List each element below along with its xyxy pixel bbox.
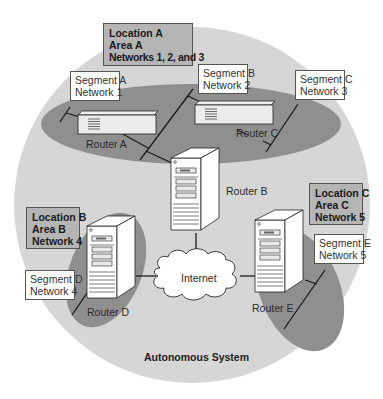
location-b-title: Location B	[32, 211, 74, 223]
segment-a-box: Segment A Network 1	[70, 71, 120, 101]
location-b-area: Area B	[32, 223, 74, 235]
router-b-label: Router B	[226, 186, 267, 197]
router-e-label: Router E	[252, 303, 293, 314]
internet-label: Internet	[181, 273, 217, 284]
location-c-box: Location C Area C Network 5	[309, 183, 363, 225]
segment-a-label: Segment A	[75, 74, 115, 86]
segment-d-network: Network 4	[30, 285, 70, 297]
router-d-label: Router D	[87, 307, 129, 318]
location-c-title: Location C	[315, 187, 357, 199]
location-a-box: Location A Area A Networks 1, 2, and 3	[103, 23, 193, 66]
segment-e-network: Network 5	[319, 249, 359, 261]
segment-b-label: Segment B	[203, 67, 243, 79]
location-a-networks: Networks 1, 2, and 3	[109, 51, 187, 63]
location-a-title: Location A	[109, 27, 187, 39]
segment-b-network: Network 2	[203, 79, 243, 91]
segment-e-box: Segment E Network 5	[314, 234, 364, 264]
router-a-icon	[78, 111, 158, 134]
location-a-area: Area A	[109, 39, 187, 51]
segment-c-network: Network 3	[300, 85, 340, 97]
segment-c-label: Segment C	[300, 73, 340, 85]
segment-c-box: Segment C Network 3	[295, 70, 345, 100]
segment-b-box: Segment B Network 2	[198, 64, 248, 94]
router-c-icon	[195, 101, 275, 124]
router-a-label: Router A	[86, 139, 127, 150]
diagram-title: Autonomous System	[144, 351, 249, 363]
router-e-icon	[255, 210, 303, 292]
location-b-box: Location B Area B Network 4	[26, 207, 80, 249]
segment-d-label: Segment D	[30, 273, 70, 285]
location-b-network: Network 4	[32, 235, 74, 247]
router-c-label: Router C	[236, 128, 278, 139]
router-b-icon	[171, 148, 219, 230]
location-c-network: Network 5	[315, 211, 357, 223]
location-c-area: Area C	[315, 199, 357, 211]
segment-d-box: Segment D Network 4	[25, 270, 75, 300]
segment-a-network: Network 1	[75, 86, 115, 98]
router-d-icon	[87, 216, 135, 298]
segment-e-label: Segment E	[319, 237, 359, 249]
